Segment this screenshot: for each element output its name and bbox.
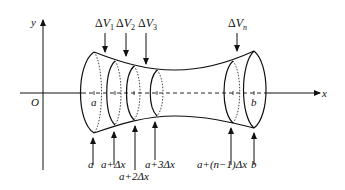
delta-vn-label: ΔVn (228, 16, 247, 32)
delta-v3-label: ΔV3 (138, 16, 157, 32)
delta-v2-label: ΔV2 (116, 16, 135, 32)
partition-label-a: a (88, 158, 94, 170)
left-end-disk (81, 52, 102, 133)
right-end-disk (244, 51, 267, 128)
label-a-on-axis: a (91, 96, 97, 108)
partition-label-a-plus-n-minus-1-dx: a+(n−1)Δx (197, 158, 247, 171)
origin-label: O (31, 96, 39, 108)
partition-label-b: b (251, 158, 257, 170)
partition-label-a-plus-3dx: a+3Δx (145, 158, 175, 170)
slice-n (224, 61, 240, 123)
x-axis-label: x (321, 87, 327, 99)
partition-label-a-plus-dx: a+Δx (101, 158, 125, 170)
label-b-on-axis: b (251, 96, 257, 108)
partition-label-a-plus-2dx: a+2Δx (119, 170, 149, 182)
delta-v1-label: ΔV1 (95, 16, 114, 32)
solid-of-revolution-diagram: y x O (0, 0, 345, 190)
y-axis-label: y (30, 16, 36, 28)
volume-arrows (105, 33, 237, 64)
solid-outline (94, 51, 254, 133)
